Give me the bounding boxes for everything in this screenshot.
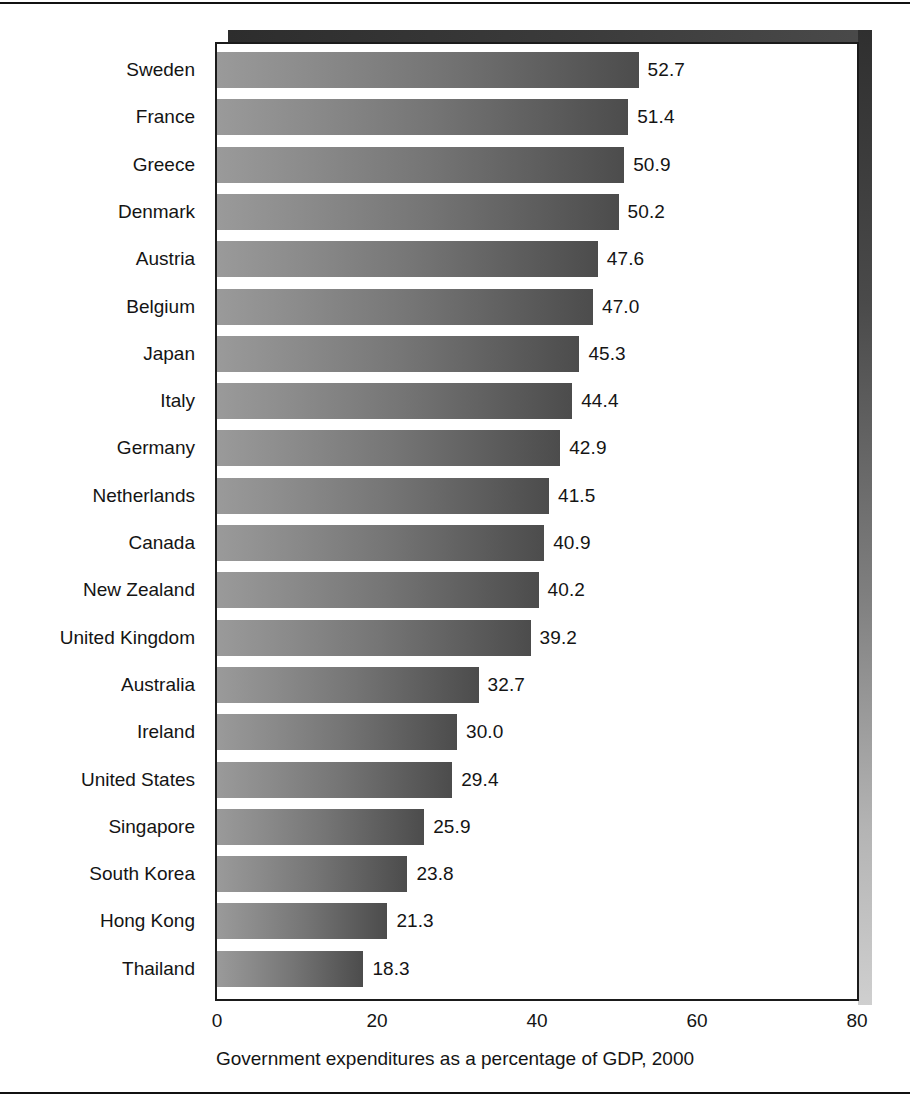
bar-value-label: 50.2 (628, 201, 665, 223)
category-label: France (0, 99, 205, 135)
bar-value-label: 39.2 (540, 627, 577, 649)
bar (217, 383, 572, 419)
figure-container: SwedenFranceGreeceDenmarkAustriaBelgiumJ… (0, 0, 910, 1106)
bar-row: 42.9 (217, 430, 857, 466)
bottom-divider-rule (0, 1092, 910, 1094)
bar-row: 25.9 (217, 809, 857, 845)
category-label: Hong Kong (0, 903, 205, 939)
category-label: Australia (0, 667, 205, 703)
bar-row: 47.0 (217, 289, 857, 325)
bar-row: 21.3 (217, 903, 857, 939)
category-label: Sweden (0, 52, 205, 88)
x-axis-ticks: 020406080 (0, 1010, 910, 1036)
x-tick-label: 40 (526, 1010, 547, 1032)
bar (217, 52, 639, 88)
bar-row: 40.2 (217, 572, 857, 608)
bar (217, 620, 531, 656)
bar (217, 809, 424, 845)
bar-value-label: 45.3 (588, 343, 625, 365)
bar-value-label: 52.7 (648, 59, 685, 81)
bar-value-label: 47.0 (602, 296, 639, 318)
bar-row: 50.9 (217, 147, 857, 183)
x-tick-label: 80 (846, 1010, 867, 1032)
category-label: Japan (0, 336, 205, 372)
bar (217, 99, 628, 135)
category-label: Greece (0, 147, 205, 183)
bar (217, 762, 452, 798)
bar-row: 32.7 (217, 667, 857, 703)
category-label: Canada (0, 525, 205, 561)
category-label: South Korea (0, 856, 205, 892)
bar-row: 23.8 (217, 856, 857, 892)
panel-shadow-right (858, 30, 872, 1005)
bar-row: 29.4 (217, 762, 857, 798)
bar (217, 336, 579, 372)
category-label: Denmark (0, 194, 205, 230)
bar-row: 45.3 (217, 336, 857, 372)
x-tick-label: 0 (212, 1010, 223, 1032)
bar-row: 44.4 (217, 383, 857, 419)
bar (217, 951, 363, 987)
top-divider-rule (0, 2, 910, 4)
bar-value-label: 25.9 (433, 816, 470, 838)
category-label: United Kingdom (0, 620, 205, 656)
category-label: Ireland (0, 714, 205, 750)
category-label: Italy (0, 383, 205, 419)
bar-value-label: 41.5 (558, 485, 595, 507)
category-label: Netherlands (0, 478, 205, 514)
plot-area: 52.751.450.950.247.647.045.344.442.941.5… (217, 52, 857, 1000)
bar (217, 430, 560, 466)
category-label: Austria (0, 241, 205, 277)
bar (217, 241, 598, 277)
bar-value-label: 50.9 (633, 154, 670, 176)
bar-value-label: 40.2 (548, 579, 585, 601)
x-axis-caption: Government expenditures as a percentage … (0, 1048, 910, 1070)
bar-row: 18.3 (217, 951, 857, 987)
bar-row: 52.7 (217, 52, 857, 88)
bar (217, 903, 387, 939)
bar (217, 525, 544, 561)
bar (217, 478, 549, 514)
category-label: Thailand (0, 951, 205, 987)
bar-value-label: 51.4 (637, 106, 674, 128)
bar (217, 194, 619, 230)
bar-value-label: 30.0 (466, 721, 503, 743)
bar (217, 572, 539, 608)
bar-row: 30.0 (217, 714, 857, 750)
x-tick-label: 20 (366, 1010, 387, 1032)
category-label: Belgium (0, 289, 205, 325)
category-axis-labels: SwedenFranceGreeceDenmarkAustriaBelgiumJ… (0, 52, 205, 1000)
x-tick-label: 60 (686, 1010, 707, 1032)
bar-value-label: 18.3 (372, 958, 409, 980)
bar (217, 147, 624, 183)
category-label: Germany (0, 430, 205, 466)
bar-row: 47.6 (217, 241, 857, 277)
bar-row: 39.2 (217, 620, 857, 656)
bar-value-label: 40.9 (553, 532, 590, 554)
bar (217, 667, 479, 703)
bar-row: 51.4 (217, 99, 857, 135)
bar-value-label: 21.3 (396, 910, 433, 932)
bar (217, 714, 457, 750)
bar-row: 50.2 (217, 194, 857, 230)
category-label: Singapore (0, 809, 205, 845)
category-label: New Zealand (0, 572, 205, 608)
bar (217, 856, 407, 892)
bar-value-label: 29.4 (461, 769, 498, 791)
category-label: United States (0, 762, 205, 798)
bar (217, 289, 593, 325)
bar-row: 40.9 (217, 525, 857, 561)
bar-value-label: 32.7 (488, 674, 525, 696)
bar-value-label: 42.9 (569, 437, 606, 459)
bar-value-label: 23.8 (416, 863, 453, 885)
bar-value-label: 47.6 (607, 248, 644, 270)
bar-value-label: 44.4 (581, 390, 618, 412)
bar-row: 41.5 (217, 478, 857, 514)
